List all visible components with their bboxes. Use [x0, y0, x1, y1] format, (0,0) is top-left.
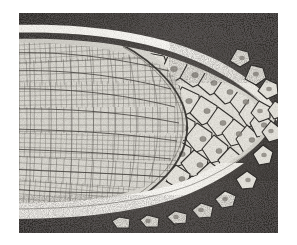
- micrograph-plate: [19, 13, 278, 233]
- figure-frame: [0, 0, 297, 245]
- root-tip-illustration: [19, 13, 278, 233]
